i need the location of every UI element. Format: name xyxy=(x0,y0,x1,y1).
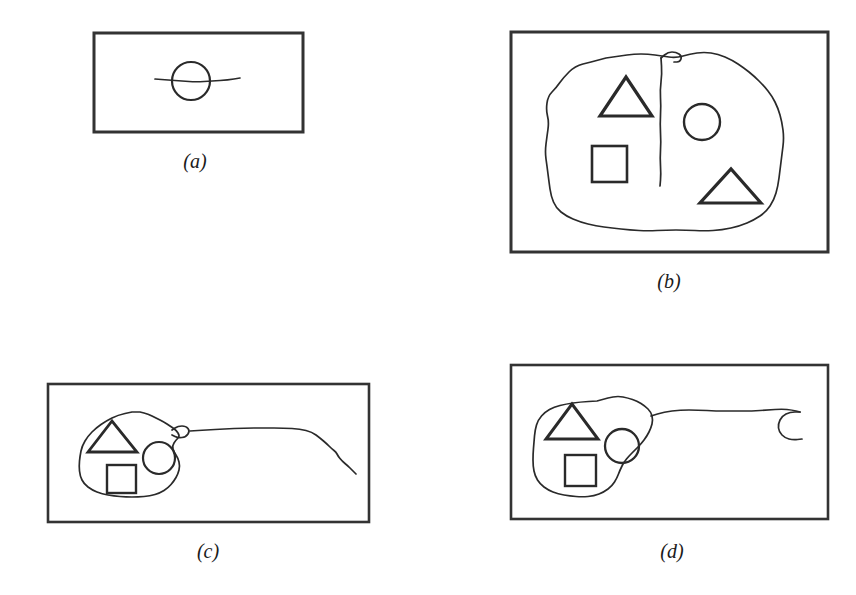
panel-c-blob-notch xyxy=(172,426,189,438)
panel-c-drawing xyxy=(0,0,856,595)
panel-b-drawing xyxy=(0,0,856,595)
panel-b-shape-triangle-3 xyxy=(700,169,761,203)
panel-b-caption: (b) xyxy=(639,270,699,293)
panel-b-shape-circle-2 xyxy=(684,104,720,140)
panel-d-shape-circle-1 xyxy=(605,429,639,463)
panel-d xyxy=(0,0,856,595)
panel-d-blob-outline xyxy=(533,397,653,497)
panel-a-trail-line xyxy=(155,78,240,82)
panel-b-blob-outline xyxy=(546,53,784,231)
panel-c-trail-line xyxy=(190,428,356,474)
panel-d-frame xyxy=(511,365,828,519)
panel-c-blob-outline xyxy=(79,412,179,497)
panel-b-flag-flick xyxy=(661,52,681,62)
panel-b-divider-line xyxy=(660,58,662,186)
panel-c-caption: (c) xyxy=(178,540,238,563)
panel-c-shape-square-2 xyxy=(107,465,136,493)
panel-d-shape-triangle-0 xyxy=(546,404,598,439)
panel-b-frame xyxy=(511,32,828,252)
panel-a-caption: (a) xyxy=(165,150,225,173)
panel-a-shape-circle-0 xyxy=(172,62,210,100)
panel-a-drawing xyxy=(0,0,856,595)
panel-c-shape-circle-1 xyxy=(143,442,175,474)
panel-d-trail-line xyxy=(651,409,800,416)
panel-c-shape-triangle-0 xyxy=(88,421,137,452)
panel-c xyxy=(0,0,856,595)
panel-d-shape-square-2 xyxy=(565,455,596,486)
panel-a-frame xyxy=(94,33,303,132)
panel-b-shape-square-1 xyxy=(592,146,627,182)
panel-d-hook-curl xyxy=(778,412,802,440)
panel-d-caption: (d) xyxy=(642,540,702,563)
figure-canvas: (a)(b)(c)(d) xyxy=(0,0,856,595)
panel-c-frame xyxy=(48,384,369,522)
panel-a xyxy=(0,0,856,595)
panel-b-shape-triangle-0 xyxy=(600,77,652,116)
panel-d-drawing xyxy=(0,0,856,595)
panel-b xyxy=(0,0,856,595)
